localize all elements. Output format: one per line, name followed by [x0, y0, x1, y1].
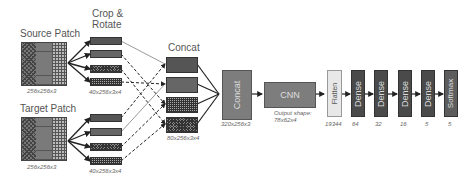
source-patch-label: Source Patch: [20, 28, 80, 39]
source-patch-dim: 256x256x3: [27, 88, 56, 94]
target-crop-2: [90, 128, 122, 136]
dense-block-1: Dense: [351, 70, 365, 117]
concat1-dim: 80x256x3x4: [167, 135, 199, 141]
dense-4-size: 5: [425, 121, 428, 127]
softmax-label: Softmax: [447, 79, 456, 108]
concat1-strip-1: [166, 57, 198, 73]
target-crop-1: [90, 114, 122, 122]
dense-3-size: 16: [400, 121, 407, 127]
dense-block-3: Dense: [398, 70, 412, 117]
softmax-size: 5: [448, 121, 451, 127]
source-crop-dim: 40x256x3x4: [89, 89, 121, 95]
concat1-strip-2: [166, 77, 198, 93]
target-patch-label: Target Patch: [20, 103, 76, 114]
flatten-label: Flatten: [331, 83, 338, 104]
source-crop-2: [90, 50, 122, 58]
softmax-block: Softmax: [444, 70, 458, 117]
target-patch-image: [21, 117, 67, 161]
flatten-block: Flatten: [327, 70, 342, 117]
source-crop-1: [90, 37, 122, 45]
source-crop-4: [90, 78, 122, 86]
crop-rotate-label-line1: Crop &: [92, 8, 123, 19]
dense-3-label: Dense: [400, 80, 410, 106]
dense-2-size: 32: [375, 121, 382, 127]
dense-1-label: Dense: [353, 80, 363, 106]
source-patch-image: [21, 42, 67, 86]
concat1-label: Concat: [168, 42, 200, 53]
concat2-label: Concat: [232, 81, 242, 110]
dense-2-label: Dense: [376, 80, 386, 106]
source-crop-3: [90, 65, 122, 73]
flatten-size: 19344: [325, 121, 342, 127]
target-crop-3: [90, 143, 122, 151]
concat2-block: Concat: [222, 70, 252, 120]
concat2-dim: 320x256x3: [221, 121, 250, 127]
cnn-output-line1: Output shape:: [274, 110, 312, 116]
concat1-strip-3: [166, 97, 198, 113]
dense-1-size: 64: [352, 121, 359, 127]
concat1-strip-4: [166, 117, 198, 133]
target-crop-4: [90, 157, 122, 165]
crop-rotate-label-line2: Rotate: [92, 19, 121, 30]
dense-block-2: Dense: [374, 70, 388, 117]
cnn-output-line2: 78x62x4: [274, 117, 297, 123]
dense-block-4: Dense: [421, 70, 435, 117]
cnn-label: CNN: [280, 90, 300, 100]
target-patch-dim: 256x256x3: [27, 164, 56, 170]
target-crop-dim: 40x256x3x4: [89, 168, 121, 174]
dense-4-label: Dense: [423, 80, 433, 106]
cnn-block: CNN: [264, 82, 316, 108]
